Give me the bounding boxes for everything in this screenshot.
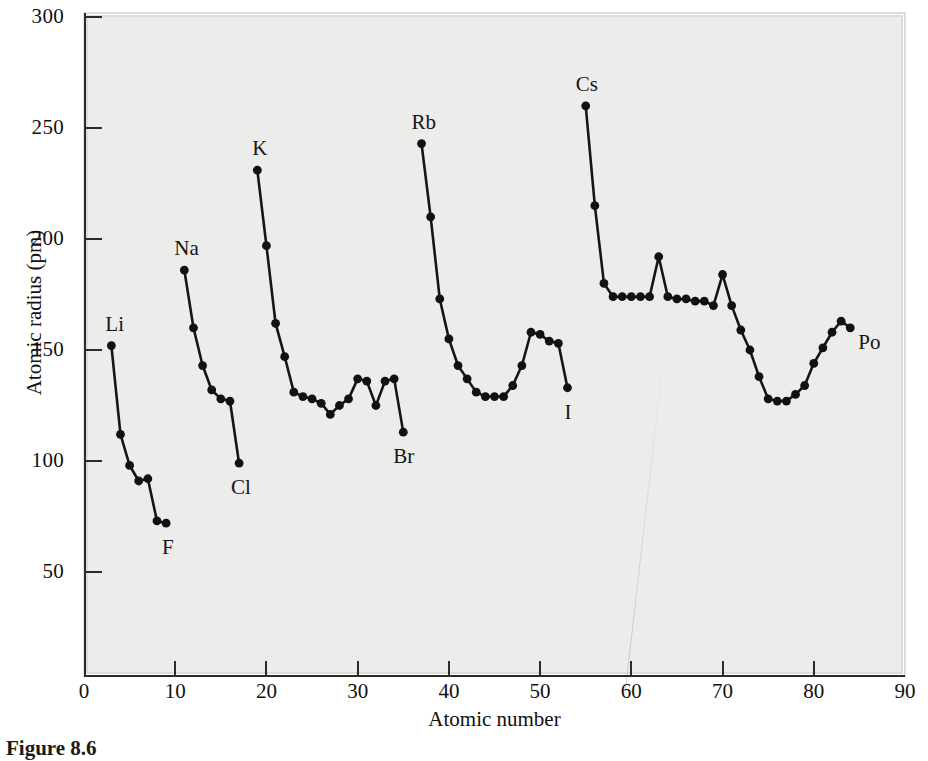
- y-tick-label: 300: [18, 6, 64, 27]
- x-tick-label: 50: [515, 681, 565, 702]
- point-label-cl: Cl: [231, 477, 251, 498]
- x-tick-label: 40: [424, 681, 474, 702]
- figure-caption: Figure 8.6: [6, 736, 97, 761]
- x-axis-title: Atomic number: [84, 707, 905, 732]
- point-label-li: Li: [105, 314, 124, 335]
- y-tick-label: 100: [18, 450, 64, 471]
- x-tick-mark: [265, 661, 267, 675]
- point-label-k: K: [252, 138, 267, 159]
- x-tick-mark: [813, 661, 815, 675]
- point-label-na: Na: [174, 238, 199, 259]
- y-tick-mark: [86, 238, 102, 240]
- y-tick-label: 50: [18, 561, 64, 582]
- point-label-i: I: [564, 402, 571, 423]
- x-tick-label: 60: [606, 681, 656, 702]
- y-axis-title: Atomic radius (pm): [22, 183, 47, 443]
- y-tick-mark: [86, 349, 102, 351]
- x-axis-line: [84, 675, 905, 677]
- x-tick-label: 10: [150, 681, 200, 702]
- plot-area-frame: [84, 13, 905, 676]
- x-tick-label: 70: [698, 681, 748, 702]
- y-tick-mark: [86, 571, 102, 573]
- x-tick-mark: [722, 661, 724, 675]
- x-tick-label: 0: [59, 681, 109, 702]
- y-tick-label: 250: [18, 117, 64, 138]
- y-tick-mark: [86, 16, 102, 18]
- y-tick-mark: [86, 460, 102, 462]
- x-tick-label: 80: [789, 681, 839, 702]
- y-axis-line: [84, 13, 86, 676]
- point-label-br: Br: [393, 446, 414, 467]
- point-label-po: Po: [858, 332, 880, 353]
- x-tick-label: 30: [333, 681, 383, 702]
- x-tick-mark: [539, 661, 541, 675]
- x-tick-mark: [174, 661, 176, 675]
- point-label-cs: Cs: [576, 74, 598, 95]
- plot-inner: [85, 14, 904, 675]
- x-tick-label: 20: [241, 681, 291, 702]
- point-label-f: F: [162, 537, 174, 558]
- y-tick-mark: [86, 127, 102, 129]
- x-tick-label: 90: [880, 681, 928, 702]
- x-tick-mark: [357, 661, 359, 675]
- x-tick-mark: [448, 661, 450, 675]
- point-label-rb: Rb: [412, 112, 437, 133]
- x-tick-mark: [630, 661, 632, 675]
